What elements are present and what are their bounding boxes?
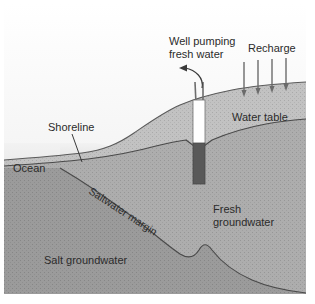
recharge-label: Recharge — [248, 42, 296, 54]
well-label-line1: Well pumping — [169, 35, 235, 47]
well-label-line2: fresh water — [169, 48, 224, 60]
water-table-label: Water table — [232, 111, 288, 123]
saltwater-intrusion-diagram: Well pumping fresh water Recharge Water … — [0, 0, 315, 304]
fresh-groundwater-label-line1: Fresh — [213, 203, 241, 215]
shoreline-label: Shoreline — [48, 121, 94, 133]
diagram-figure: Well pumping fresh water Recharge Water … — [0, 0, 315, 304]
salt-groundwater-label: Salt groundwater — [44, 254, 127, 266]
ocean-label: Ocean — [13, 162, 45, 174]
fresh-groundwater-label-line2: groundwater — [213, 216, 274, 228]
well-casing-screen — [193, 143, 205, 184]
well-casing-unsaturated — [193, 100, 205, 145]
